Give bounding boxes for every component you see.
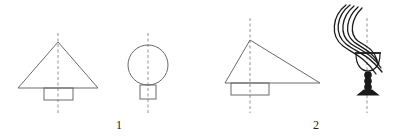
figure-1b-circle xyxy=(128,33,168,113)
base-rectangle xyxy=(140,85,156,99)
base-rectangle xyxy=(44,88,73,100)
figure-2b-goblet-feathers xyxy=(334,5,382,113)
group-label-2: 2 xyxy=(313,119,319,131)
balance-diagram: 1 2 xyxy=(0,0,400,140)
triangle-shape xyxy=(18,42,98,88)
group-label-1: 1 xyxy=(116,119,122,131)
triangle-shape xyxy=(225,40,320,83)
figure-1a-symmetric-triangle xyxy=(18,33,98,113)
figure-2a-asymmetric-triangle xyxy=(225,18,320,113)
